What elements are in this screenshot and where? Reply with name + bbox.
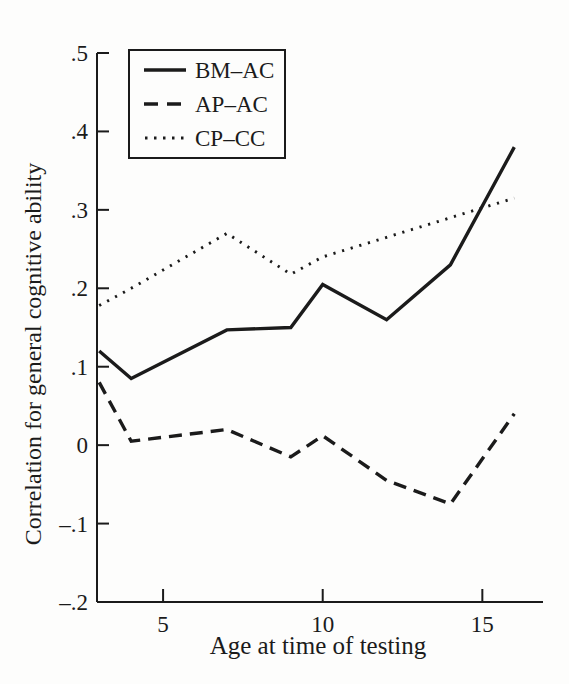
x-tick-label: 15 [471,612,494,637]
x-axis-title: Age at time of testing [210,632,427,660]
series-line-cp-cc [99,198,514,305]
legend-row-ap-ac: AP–AC [144,89,284,119]
x-tick-label: 5 [157,612,169,637]
legend-label-ap-ac: AP–AC [195,93,268,116]
y-tick-label: .4 [71,119,89,144]
y-tick-label: .1 [71,355,88,380]
solid-line-icon [144,66,186,74]
y-tick-label: 0 [77,433,89,458]
y-tick-label: .5 [71,41,88,66]
legend-label-cp-cc: CP–CC [195,127,265,150]
y-tick-label: –.2 [58,590,88,615]
y-tick-label: .3 [71,198,88,223]
y-tick-label: .2 [71,276,88,301]
y-axis-title: Correlation for general cognitive abilit… [20,163,47,546]
legend-row-bm-ac: BM–AC [144,55,284,85]
legend-label-bm-ac: BM–AC [195,59,274,82]
figure-container: .5.4.3.2.10–.1–.251015 Correlation for g… [0,0,569,684]
legend-box: BM–AC AP–AC CP–CC [128,49,286,159]
y-tick-label: –.1 [58,512,88,537]
legend-row-cp-cc: CP–CC [144,123,284,153]
series-line-ap-ac [99,382,514,504]
dashed-line-icon [144,100,186,108]
series-line-bm-ac [99,147,514,378]
dotted-line-icon [144,134,186,142]
